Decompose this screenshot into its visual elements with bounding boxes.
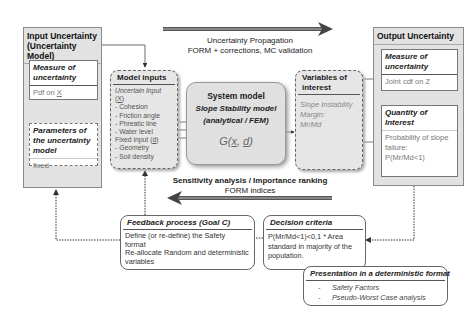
fn-part: G( xyxy=(219,135,231,147)
decision-body: P(Mr/Md<1)<0,1 * Area standard in majori… xyxy=(264,230,365,263)
body-line: population. xyxy=(268,251,361,261)
feedback-body: Define (or re-define) the Safety format … xyxy=(121,230,254,268)
body-line: P(Mr/Md<1) xyxy=(385,153,454,163)
body-line: Mr/Md xyxy=(300,120,358,130)
fn-part: ) xyxy=(249,135,253,147)
title-line: the uncertainty xyxy=(33,136,94,146)
input-uncertainty-panel: Input Uncertainty (Uncertainty Model) Me… xyxy=(23,27,102,188)
title-line: uncertainty xyxy=(385,62,454,72)
bullet: - xyxy=(318,293,332,303)
list-item: - Water level xyxy=(115,128,173,136)
body-text: Pdf on xyxy=(33,88,57,97)
var-x: X xyxy=(117,95,122,102)
system-model-subtitle: Slope Stability model xyxy=(187,104,285,113)
feedback-title: Feedback process (Goal C) xyxy=(123,216,252,230)
list-item: -Pseudo-Worst Case analysis xyxy=(318,293,443,303)
sensitivity-subtitle: FORM indices xyxy=(160,186,340,196)
presentation-title: Presentation in a deterministic format xyxy=(306,267,445,281)
body-line: Probability of slope xyxy=(385,133,454,143)
system-function: G(x, d) xyxy=(187,135,285,147)
list-item: -Safety Factors xyxy=(318,283,443,293)
body-line: standard in majority of the xyxy=(268,242,361,252)
output-uncertainty-title: Output Uncertainty xyxy=(374,28,463,45)
label-text: Uncertain Input xyxy=(115,87,161,94)
system-model-subtitle2: (analytical / FEM) xyxy=(187,116,285,125)
input-measure-title: Measure of uncertainty xyxy=(30,61,97,86)
system-model-title: System model xyxy=(187,91,285,101)
decision-title: Decision criteria xyxy=(266,216,363,230)
variables-body: Slope Instability Margin: Mr/Md xyxy=(296,98,362,132)
feedback-process-box: Feedback process (Goal C) Define (or re-… xyxy=(120,215,255,270)
title-line: Quantity of xyxy=(385,108,454,118)
output-measure-title: Measure of uncertainty xyxy=(382,50,457,75)
sensitivity-label: Sensitivity analysis / Importance rankin… xyxy=(160,176,340,196)
model-inputs-box: Model inputs Uncertain Input (X) - Cohes… xyxy=(110,70,178,169)
propagation-arrow xyxy=(163,22,333,36)
bullet: - xyxy=(318,283,332,293)
list-item: - Friction angle xyxy=(115,112,173,120)
title-line: Parameters of xyxy=(33,126,94,136)
title-line: Interest xyxy=(385,118,454,128)
decision-criteria-box: Decision criteria P(Mr/Md<1)<0,1 * Area … xyxy=(263,215,366,270)
variables-title: Variables of interest xyxy=(298,71,360,95)
propagation-subtitle: FORM + corrections, MC validation xyxy=(170,46,330,56)
title-line: interest xyxy=(302,83,356,93)
body-line: variables xyxy=(125,258,250,267)
input-measure-box: Measure of uncertainty Pdf on X xyxy=(29,60,98,100)
quantity-title: Quantity of Interest xyxy=(382,106,457,131)
item-text: Safety Factors xyxy=(332,283,379,292)
title-line: Input Uncertainty xyxy=(27,31,98,41)
body-line: P(Mr/Md<1)<0,1 * Area xyxy=(268,232,361,242)
input-parameters-body: fixed xyxy=(30,159,97,172)
list-item: - Soil density xyxy=(115,153,173,161)
input-parameters-title: Parameters of the uncertainty model xyxy=(30,124,97,159)
list-item: - Cohesion xyxy=(115,103,173,111)
body-line: Slope Instability xyxy=(300,100,358,110)
title-line: Measure of xyxy=(33,63,94,73)
title-line: model xyxy=(33,146,94,156)
list-item: - Phreatic line xyxy=(115,120,173,128)
sensitivity-title: Sensitivity analysis / Importance rankin… xyxy=(160,176,340,186)
uncertain-input-label: Uncertain Input xyxy=(115,87,173,95)
variables-of-interest-box: Variables of interest Slope Instability … xyxy=(295,70,363,170)
body-line: failure: xyxy=(385,143,454,153)
item-text: Pseudo-Worst Case analysis xyxy=(332,293,426,302)
input-measure-body: Pdf on X xyxy=(30,86,97,99)
propagation-label: Uncertainty Propagation FORM + correctio… xyxy=(170,36,330,56)
presentation-list: -Safety Factors -Pseudo-Worst Case analy… xyxy=(304,281,447,304)
fixed-input-label: Fixed input (d) xyxy=(115,136,173,144)
title-line: uncertainty xyxy=(33,73,94,83)
presentation-box: Presentation in a deterministic format -… xyxy=(303,266,448,306)
output-measure-body: Joint cdf on Z xyxy=(382,75,457,88)
output-measure-box: Measure of uncertainty Joint cdf on Z xyxy=(381,49,458,91)
input-uncertainty-title: Input Uncertainty (Uncertainty Model) xyxy=(24,28,101,64)
model-inputs-title: Model inputs xyxy=(113,71,175,85)
uncertainty-framework-diagram: Uncertainty Propagation FORM + correctio… xyxy=(0,0,476,316)
var-d: d xyxy=(152,136,156,143)
system-model-box: System model Slope Stability model (anal… xyxy=(186,82,286,165)
body-line: Margin: xyxy=(300,110,358,120)
input-parameters-box: Parameters of the uncertainty model fixe… xyxy=(29,123,98,166)
quantity-body: Probability of slope failure: P(Mr/Md<1) xyxy=(382,131,457,165)
label-text: Fixed input ( xyxy=(115,136,152,143)
list-item: - Geometry xyxy=(115,144,173,152)
title-line: Variables of xyxy=(302,73,356,83)
propagation-title: Uncertainty Propagation xyxy=(170,36,330,46)
title-line: (Uncertainty Model) xyxy=(27,41,98,61)
quantity-of-interest-box: Quantity of Interest Probability of slop… xyxy=(381,105,458,177)
model-inputs-body: Uncertain Input (X) - Cohesion - Frictio… xyxy=(111,85,177,163)
var-x: X xyxy=(57,88,62,97)
output-uncertainty-panel: Output Uncertainty Measure of uncertaint… xyxy=(373,27,464,186)
title-line: Measure of xyxy=(385,52,454,62)
uncertain-input-var: (X) xyxy=(115,95,173,103)
